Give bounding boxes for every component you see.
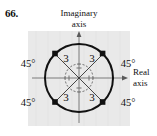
radius-label-q2: 3 [63,52,69,64]
imaginary-axis-label-line2: axis [72,19,87,29]
real-axis-label-line1: Real [133,67,150,77]
angle-label-lower-left: 45° [21,97,36,108]
angle-label-upper-left: 45° [21,58,36,69]
root-marker-q3 [52,99,58,105]
root-marker-q4 [100,99,106,105]
complex-plane-figure: 3 3 3 3 45° 45° 45° 45° Imaginary axis R… [0,0,157,136]
real-axis-label-line2: axis [133,78,148,88]
radius-label-q4: 3 [89,91,95,103]
angle-label-lower-right: 45° [121,97,136,108]
radius-label-q3: 3 [63,91,69,103]
root-marker-q2 [52,51,58,57]
radius-label-q1: 3 [89,52,95,64]
imaginary-axis-label-line1: Imaginary [61,8,98,18]
figure-svg: 3 3 3 3 45° 45° 45° 45° Imaginary axis R… [0,0,157,136]
root-marker-q1 [100,51,106,57]
